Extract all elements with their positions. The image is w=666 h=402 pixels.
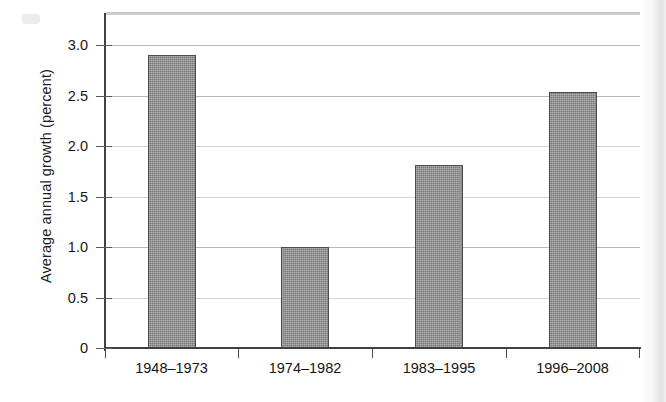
y-tick-label-2-5: 2.5 [28, 89, 88, 104]
x-tick-label-1974-1982: 1974–1982 [240, 360, 370, 376]
y-tick-label-0: 0 [28, 341, 88, 356]
bar-1996-2008 [549, 92, 597, 348]
y-tick-mark-1-5 [96, 197, 112, 198]
bar-1948-1973 [148, 55, 196, 348]
x-tick-mark-3 [506, 349, 507, 358]
y-axis-title: Average annual growth (percent) [38, 26, 54, 326]
bar-1974-1982 [281, 247, 329, 348]
y-tick-label-2-0: 2.0 [28, 139, 88, 154]
scan-shadow-right [642, 0, 666, 402]
x-tick-mark-2 [372, 349, 373, 358]
x-tick-mark-1 [238, 349, 239, 358]
y-axis-line [104, 13, 106, 351]
y-tick-mark-0-5 [96, 298, 112, 299]
scan-artifact-speck [22, 14, 40, 24]
x-tick-mark-4 [639, 349, 640, 358]
y-tick-label-3-0: 3.0 [28, 38, 88, 53]
y-tick-label-0-5: 0.5 [28, 291, 88, 306]
bar-1983-1995 [415, 165, 463, 348]
y-tick-label-1-0: 1.0 [28, 240, 88, 255]
y-tick-mark-1-0 [96, 247, 112, 248]
y-tick-mark-0 [96, 348, 112, 349]
x-tick-label-1983-1995: 1983–1995 [374, 360, 504, 376]
gridline-3-0 [106, 45, 640, 46]
x-tick-label-1996-2008: 1996–2008 [508, 360, 638, 376]
y-tick-mark-2-5 [96, 96, 112, 97]
x-tick-mark-0 [105, 349, 106, 358]
x-tick-label-1948-1973: 1948–1973 [107, 360, 237, 376]
y-tick-label-1-5: 1.5 [28, 190, 88, 205]
y-tick-mark-3-0 [96, 45, 112, 46]
y-tick-mark-2-0 [96, 146, 112, 147]
